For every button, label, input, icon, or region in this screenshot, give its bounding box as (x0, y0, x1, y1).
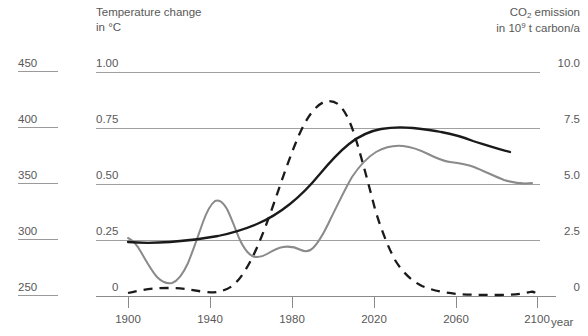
mid-tick-0-75: 0.75 (96, 113, 118, 125)
right-tick-0: 0 (574, 281, 580, 293)
x-axis-ticks (129, 296, 538, 308)
left-tick-250: 250 (18, 281, 58, 296)
x-label-1980: 1980 (262, 313, 322, 325)
right-tick-7-5: 7.5 (564, 113, 580, 125)
left-tick-350: 350 (18, 169, 58, 184)
x-label-1940: 1940 (180, 313, 240, 325)
mid-tick-1-00: 1.00 (96, 57, 118, 69)
co2-concentration-curve (128, 127, 510, 242)
right-tick-10-0: 10.0 (558, 57, 580, 69)
right-tick-2-5: 2.5 (564, 225, 580, 237)
left-tick-450: 450 (18, 57, 58, 72)
mid-tick-0-50: 0.50 (96, 169, 118, 181)
co2-emission-curve (128, 101, 537, 296)
left-tick-300: 300 (18, 225, 58, 240)
right-tick-5-0: 5.0 (564, 169, 580, 181)
x-label-2060: 2060 (426, 313, 486, 325)
x-axis-unit-label: year (551, 316, 573, 328)
mid-tick-0: 0 (112, 281, 118, 293)
left-tick-400: 400 (18, 113, 58, 128)
mid-tick-0-25: 0.25 (96, 225, 118, 237)
climate-projection-chart: Temperature change in °C CO2 emission in… (0, 0, 588, 336)
temperature-curve (128, 146, 532, 284)
x-label-2020: 2020 (344, 313, 404, 325)
plot-svg (0, 0, 588, 336)
x-label-1900: 1900 (98, 313, 158, 325)
gridline-stubs (96, 73, 128, 297)
